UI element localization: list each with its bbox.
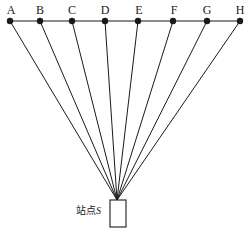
station-label-prefix: 站点 (76, 205, 96, 216)
point-label-e: E (132, 4, 146, 16)
point-dot-c (69, 18, 75, 24)
sight-line-a (10, 21, 117, 200)
point-dot-b (37, 18, 43, 24)
sight-line-g (117, 21, 207, 200)
point-label-c: C (65, 4, 79, 16)
point-label-g: G (200, 4, 214, 16)
sight-line-f (117, 21, 173, 200)
point-dot-e (135, 18, 141, 24)
point-dot-a (7, 18, 13, 24)
diagram-canvas (0, 0, 249, 234)
point-label-d: D (98, 4, 112, 16)
sight-line-h (117, 21, 240, 200)
station-box (110, 200, 126, 227)
sight-line-d (105, 21, 117, 200)
point-dot-f (170, 18, 176, 24)
point-dot-h (237, 18, 243, 24)
station-label: 站点S (76, 206, 101, 216)
point-dot-d (102, 18, 108, 24)
sight-line-group (10, 21, 240, 200)
point-label-a: A (4, 4, 18, 16)
point-label-h: H (233, 4, 247, 16)
point-dot-g (204, 18, 210, 24)
figure-container: ABCDEFGH 站点S (0, 0, 249, 234)
point-label-b: B (33, 4, 47, 16)
point-label-f: F (167, 4, 181, 16)
station-label-letter: S (96, 205, 101, 216)
